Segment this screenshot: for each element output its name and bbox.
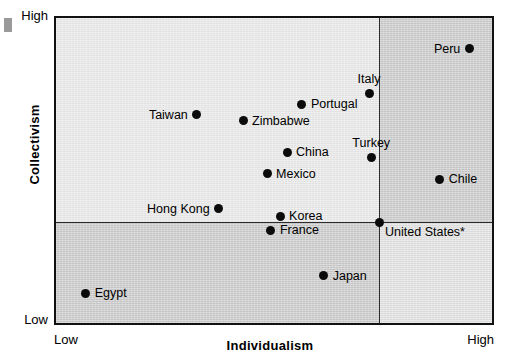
data-point-label: Korea <box>289 210 322 223</box>
y-axis-title: Collectivism <box>27 75 42 215</box>
data-point-label: United States* <box>385 226 465 239</box>
data-point-label: France <box>280 224 319 237</box>
scatter-plot-figure: Collectivism High Low PeruItalyPortugalT… <box>0 0 516 364</box>
vertical-divider-line <box>379 18 380 323</box>
data-point-label: Taiwan <box>149 108 188 121</box>
data-point-label: China <box>296 146 329 159</box>
data-point-marker <box>297 100 306 109</box>
data-point-marker <box>367 153 376 162</box>
quadrant-bottom-left <box>56 222 379 323</box>
y-axis-high-label: High <box>0 8 48 23</box>
x-axis-low-label: Low <box>54 332 78 347</box>
data-point-label: Italy <box>358 73 381 86</box>
data-point-label: Hong Kong <box>147 202 210 215</box>
data-point-marker <box>435 175 444 184</box>
data-point-label: Chile <box>449 173 478 186</box>
data-point-marker <box>239 116 248 125</box>
data-point-label: Mexico <box>276 168 316 181</box>
data-point-label: Zimbabwe <box>252 115 310 128</box>
x-axis-title: Individualism <box>180 338 360 353</box>
data-point-label: Egypt <box>95 287 127 300</box>
data-point-label: Portugal <box>311 98 358 111</box>
data-point-marker <box>283 148 292 157</box>
x-axis-high-label: High <box>452 332 494 347</box>
data-point-label: Japan <box>333 269 367 282</box>
data-point-marker <box>276 212 285 221</box>
data-point-label: Peru <box>434 42 460 55</box>
data-point-marker <box>365 89 374 98</box>
data-point-marker <box>81 289 90 298</box>
horizontal-divider-line <box>56 222 492 223</box>
plot-area: PeruItalyPortugalTaiwanZimbabweTurkeyChi… <box>54 16 494 325</box>
data-point-marker <box>465 44 474 53</box>
data-point-label: Turkey <box>352 137 390 150</box>
data-point-marker <box>263 169 272 178</box>
data-point-marker <box>375 218 384 227</box>
y-axis-low-label: Low <box>0 312 48 327</box>
quadrant-top-left <box>56 18 379 222</box>
